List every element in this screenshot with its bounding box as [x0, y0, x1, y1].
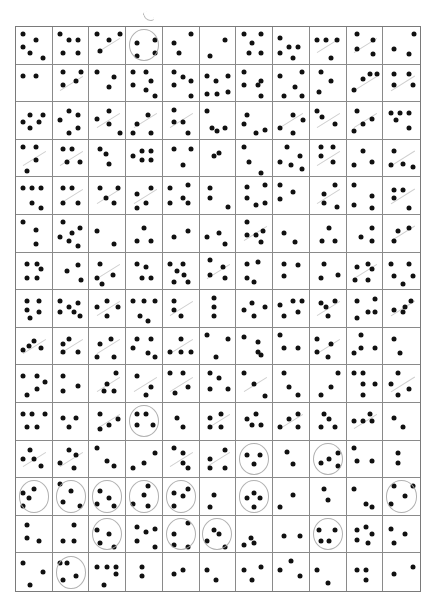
dot-cell[interactable] — [16, 177, 53, 215]
dot-cell[interactable] — [163, 365, 200, 403]
dot-cell[interactable] — [273, 365, 310, 403]
dot-cell[interactable] — [16, 441, 53, 479]
dot-cell[interactable] — [310, 403, 347, 441]
dot-cell[interactable] — [236, 215, 273, 253]
dot-cell[interactable] — [236, 441, 273, 479]
dot-cell[interactable] — [53, 365, 90, 403]
dot-cell[interactable] — [347, 215, 384, 253]
dot-cell[interactable] — [236, 403, 273, 441]
dot-cell[interactable] — [383, 365, 420, 403]
dot-cell[interactable] — [53, 177, 90, 215]
dot-cell[interactable] — [200, 365, 237, 403]
dot-cell[interactable] — [383, 290, 420, 328]
dot-cell[interactable] — [347, 403, 384, 441]
dot-cell[interactable] — [200, 328, 237, 366]
dot-cell[interactable] — [310, 516, 347, 554]
dot-cell[interactable] — [347, 290, 384, 328]
dot-cell[interactable] — [383, 215, 420, 253]
dot-cell[interactable] — [163, 177, 200, 215]
dot-cell[interactable] — [126, 553, 163, 591]
dot-cell[interactable] — [163, 553, 200, 591]
dot-cell[interactable] — [310, 102, 347, 140]
dot-cell[interactable] — [53, 441, 90, 479]
dot-cell[interactable] — [347, 27, 384, 65]
dot-cell[interactable] — [163, 253, 200, 291]
dot-cell[interactable] — [310, 290, 347, 328]
dot-cell[interactable] — [236, 27, 273, 65]
dot-cell[interactable] — [236, 253, 273, 291]
dot-cell[interactable] — [89, 403, 126, 441]
dot-cell[interactable] — [53, 553, 90, 591]
dot-cell[interactable] — [53, 403, 90, 441]
dot-cell[interactable] — [347, 177, 384, 215]
dot-cell[interactable] — [16, 365, 53, 403]
dot-cell[interactable] — [383, 27, 420, 65]
dot-cell[interactable] — [383, 177, 420, 215]
dot-cell[interactable] — [310, 27, 347, 65]
dot-cell[interactable] — [163, 403, 200, 441]
dot-cell[interactable] — [200, 140, 237, 178]
dot-cell[interactable] — [53, 290, 90, 328]
dot-cell[interactable] — [383, 253, 420, 291]
dot-cell[interactable] — [53, 215, 90, 253]
dot-cell[interactable] — [347, 328, 384, 366]
dot-cell[interactable] — [273, 177, 310, 215]
dot-cell[interactable] — [163, 140, 200, 178]
dot-cell[interactable] — [16, 27, 53, 65]
dot-cell[interactable] — [126, 441, 163, 479]
dot-cell[interactable] — [347, 516, 384, 554]
dot-cell[interactable] — [273, 140, 310, 178]
dot-cell[interactable] — [126, 403, 163, 441]
dot-cell[interactable] — [310, 65, 347, 103]
dot-cell[interactable] — [273, 441, 310, 479]
dot-cell[interactable] — [16, 553, 53, 591]
dot-cell[interactable] — [16, 403, 53, 441]
dot-cell[interactable] — [200, 403, 237, 441]
dot-cell[interactable] — [163, 215, 200, 253]
dot-cell[interactable] — [126, 65, 163, 103]
dot-cell[interactable] — [273, 27, 310, 65]
dot-cell[interactable] — [310, 365, 347, 403]
dot-cell[interactable] — [200, 177, 237, 215]
dot-cell[interactable] — [53, 516, 90, 554]
dot-cell[interactable] — [236, 65, 273, 103]
dot-cell[interactable] — [89, 177, 126, 215]
dot-cell[interactable] — [273, 516, 310, 554]
dot-cell[interactable] — [163, 441, 200, 479]
dot-cell[interactable] — [236, 328, 273, 366]
dot-cell[interactable] — [383, 516, 420, 554]
dot-cell[interactable] — [16, 328, 53, 366]
dot-cell[interactable] — [126, 177, 163, 215]
dot-cell[interactable] — [383, 441, 420, 479]
dot-cell[interactable] — [16, 215, 53, 253]
dot-cell[interactable] — [89, 478, 126, 516]
dot-cell[interactable] — [310, 553, 347, 591]
dot-cell[interactable] — [200, 215, 237, 253]
dot-cell[interactable] — [310, 140, 347, 178]
dot-cell[interactable] — [273, 478, 310, 516]
dot-cell[interactable] — [89, 140, 126, 178]
dot-cell[interactable] — [16, 478, 53, 516]
dot-cell[interactable] — [200, 27, 237, 65]
dot-cell[interactable] — [200, 516, 237, 554]
dot-cell[interactable] — [236, 478, 273, 516]
dot-cell[interactable] — [16, 102, 53, 140]
dot-cell[interactable] — [126, 328, 163, 366]
dot-cell[interactable] — [383, 328, 420, 366]
dot-cell[interactable] — [236, 140, 273, 178]
dot-cell[interactable] — [236, 516, 273, 554]
dot-cell[interactable] — [310, 328, 347, 366]
dot-cell[interactable] — [200, 553, 237, 591]
dot-cell[interactable] — [53, 140, 90, 178]
dot-cell[interactable] — [383, 102, 420, 140]
dot-cell[interactable] — [236, 290, 273, 328]
dot-cell[interactable] — [126, 140, 163, 178]
dot-cell[interactable] — [273, 553, 310, 591]
dot-cell[interactable] — [163, 65, 200, 103]
dot-cell[interactable] — [126, 27, 163, 65]
dot-cell[interactable] — [200, 253, 237, 291]
dot-cell[interactable] — [200, 441, 237, 479]
dot-cell[interactable] — [236, 177, 273, 215]
dot-cell[interactable] — [310, 478, 347, 516]
dot-cell[interactable] — [163, 290, 200, 328]
